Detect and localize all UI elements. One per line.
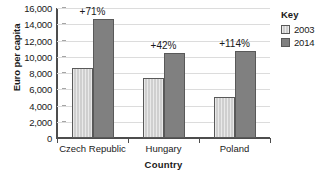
x-axis-category-labels: Czech RepublicHungaryPoland [57, 143, 270, 157]
x-axis-category-poland: Poland [185, 143, 285, 154]
y-axis-tick-label: 6,000 [8, 84, 52, 95]
bar-group: +71% [72, 8, 114, 138]
legend-title: Key [281, 9, 321, 20]
y-axis-tick-label: 14,000 [8, 19, 52, 30]
percent-change-label: +114% [205, 38, 265, 49]
plot-area: +71%+42%+114% [57, 8, 270, 138]
y-axis-tick-label: 4,000 [8, 100, 52, 111]
legend-label-2003: 2003 [294, 24, 314, 35]
legend-item-2014[interactable]: 2014 [281, 37, 321, 48]
y-axis-tick-label: 16,000 [8, 3, 52, 14]
legend-swatch-icon-2014 [281, 38, 290, 47]
chart-container: Euro per capita 02,0004,0006,0008,00010,… [0, 0, 322, 177]
bar-poland-2014[interactable] [235, 51, 256, 138]
percent-change-label: +42% [134, 40, 194, 51]
bar-czech-republic-2014[interactable] [93, 19, 114, 138]
y-axis-tick-label: 2,000 [8, 116, 52, 127]
y-axis-tick-label: 10,000 [8, 51, 52, 62]
legend-label-2014: 2014 [294, 37, 314, 48]
percent-change-label: +71% [63, 6, 123, 17]
bar-hungary-2003[interactable] [143, 78, 164, 138]
y-axis-tick-label: 8,000 [8, 68, 52, 79]
legend-item-2003[interactable]: 2003 [281, 24, 321, 35]
y-axis-tick-labels: 02,0004,0006,0008,00010,00012,00014,0001… [8, 8, 52, 138]
x-axis-title: Country [57, 159, 270, 170]
bar-hungary-2014[interactable] [164, 53, 185, 138]
bar-czech-republic-2003[interactable] [72, 68, 93, 138]
legend: Key 2003 2014 [281, 9, 321, 50]
bar-poland-2003[interactable] [214, 97, 235, 138]
y-axis-tick-label: 12,000 [8, 35, 52, 46]
bar-group: +42% [143, 8, 185, 138]
bar-group: +114% [214, 8, 256, 138]
y-axis-tick-label: 0 [8, 133, 52, 144]
legend-swatch-icon-2003 [281, 25, 290, 34]
